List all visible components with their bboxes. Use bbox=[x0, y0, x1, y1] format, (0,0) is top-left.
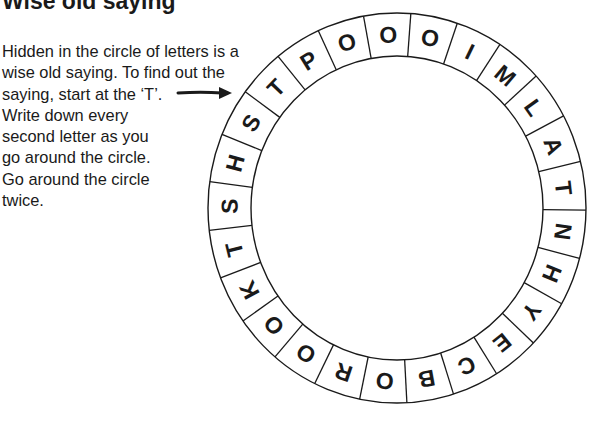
circle-letter: O bbox=[379, 21, 398, 48]
circle-letter: S bbox=[216, 198, 242, 214]
circle-letter: O bbox=[375, 367, 395, 394]
circle-letter: T bbox=[550, 180, 577, 197]
ring-inner-edge bbox=[251, 56, 543, 360]
letter-circle: TPOOOIMLATNHYECBOROOKTSHS bbox=[0, 0, 602, 424]
circle-letter: N bbox=[549, 222, 577, 242]
